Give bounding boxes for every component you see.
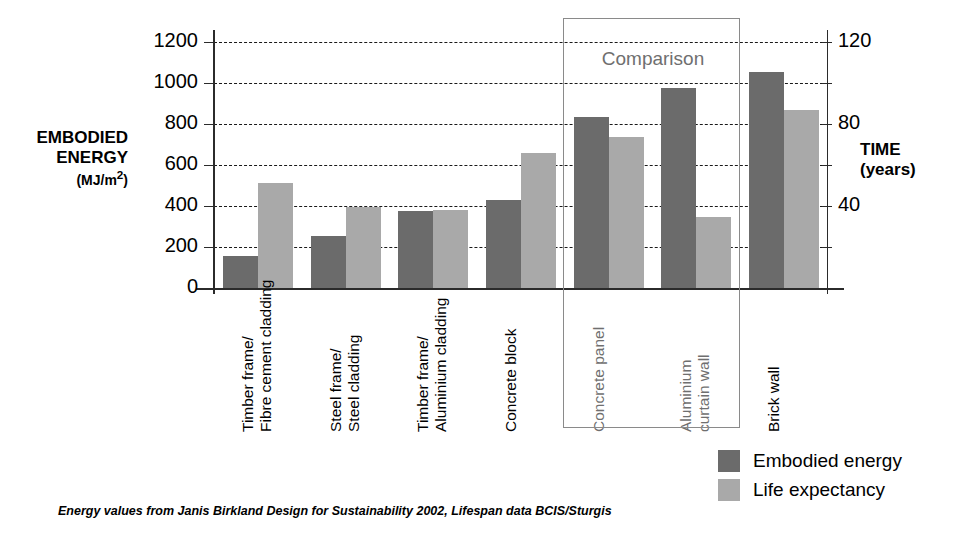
y-tick-left-400: [204, 206, 214, 207]
bar-life-expectancy-4: [609, 137, 644, 288]
y-tick-left-600: [204, 165, 214, 166]
x-category-label-0-line2: Fibre cement cladding: [257, 280, 275, 433]
x-category-label-3-line1: Concrete block: [502, 329, 519, 432]
x-category-label-4-line1: Concrete panel: [590, 327, 607, 432]
bar-life-expectancy-6: [784, 110, 819, 288]
bars-layer: [214, 42, 828, 288]
bar-embodied-energy-2: [398, 211, 433, 288]
y-tick-label-right-80: 80: [838, 111, 898, 134]
y-tick-label-left-400: 400: [130, 193, 198, 216]
bar-embodied-energy-3: [486, 200, 521, 288]
legend-swatch-embodied-energy: [718, 450, 740, 472]
bar-life-expectancy-0: [258, 183, 293, 288]
x-category-label-3: Concrete block: [502, 329, 520, 432]
embodied-energy-bar-chart: 020040060080010001200 4080120 EMBODIED E…: [0, 0, 964, 544]
bar-life-expectancy-1: [346, 207, 381, 288]
x-category-label-2: Timber frame/Aluminium cladding: [414, 298, 451, 432]
y-tick-label-left-200: 200: [130, 234, 198, 257]
y-tick-label-right-40: 40: [838, 193, 898, 216]
legend-label-life-expectancy: Life expectancy: [753, 479, 885, 501]
bar-life-expectancy-3: [521, 153, 556, 288]
y-axis-right-title-line1: TIME: [860, 140, 960, 160]
x-category-label-6: Brick wall: [765, 367, 783, 432]
y-axis-right-title: TIME (years): [860, 140, 960, 180]
x-category-label-5-line2: curtain wall: [696, 354, 714, 432]
source-footnote: Energy values from Janis Birkland Design…: [58, 504, 612, 518]
y-tick-right-0: [822, 288, 832, 289]
comparison-label: Comparison: [588, 48, 718, 70]
x-category-label-1: Steel frame/Steel cladding: [327, 335, 364, 432]
y-axis-left-title-line1: EMBODIED: [18, 128, 128, 148]
x-category-label-1-line1: Steel frame/: [327, 348, 344, 432]
legend-label-embodied-energy: Embodied energy: [753, 450, 902, 472]
y-tick-label-left-600: 600: [130, 152, 198, 175]
bar-embodied-energy-4: [574, 117, 609, 288]
legend-swatch-life-expectancy: [718, 479, 740, 501]
y-tick-left-200: [204, 247, 214, 248]
y-axis-left-unit: (MJ/m2): [18, 168, 128, 188]
x-category-label-2-line2: Aluminium cladding: [433, 298, 451, 432]
y-tick-label-left-1000: 1000: [130, 70, 198, 93]
y-tick-label-left-1200: 1200: [130, 29, 198, 52]
y-tick-left-1200: [204, 42, 214, 43]
legend-item-embodied-energy: Embodied energy: [718, 446, 902, 475]
x-category-label-1-line2: Steel cladding: [345, 335, 363, 432]
x-category-label-5-line1: Aluminium: [677, 360, 694, 432]
y-axis-left-title: EMBODIED ENERGY (MJ/m2): [18, 128, 128, 188]
x-category-label-0-line1: Timber frame/: [239, 336, 256, 432]
bar-embodied-energy-1: [311, 236, 346, 288]
legend-item-life-expectancy: Life expectancy: [718, 475, 902, 504]
x-category-label-0: Timber frame/Fibre cement cladding: [239, 280, 276, 433]
bar-embodied-energy-6: [749, 72, 784, 288]
bar-life-expectancy-2: [433, 210, 468, 288]
x-category-label-4: Concrete panel: [590, 327, 608, 432]
y-tick-label-left-0: 0: [130, 275, 198, 298]
bar-life-expectancy-5: [696, 217, 731, 288]
y-tick-left-1000: [204, 83, 214, 84]
y-axis-left-title-line2: ENERGY: [18, 148, 128, 168]
x-axis-line: [196, 288, 844, 290]
y-tick-label-right-120: 120: [838, 29, 898, 52]
x-category-label-2-line1: Timber frame/: [414, 336, 431, 432]
legend: Embodied energy Life expectancy: [718, 446, 902, 504]
bar-embodied-energy-5: [661, 88, 696, 288]
y-tick-label-left-800: 800: [130, 111, 198, 134]
y-tick-left-800: [204, 124, 214, 125]
y-tick-left-0: [204, 288, 214, 289]
x-category-label-5: Aluminiumcurtain wall: [677, 354, 714, 432]
y-axis-right-title-line2: (years): [860, 160, 960, 180]
x-category-label-6-line1: Brick wall: [765, 367, 782, 432]
